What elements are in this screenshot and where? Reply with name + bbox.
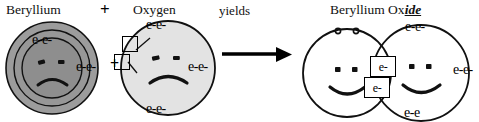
product-right-side-electrons-label: e-e-: [453, 63, 473, 76]
oxygen-right-eye: [173, 56, 180, 60]
beryllium-right-eye: [58, 60, 65, 64]
shared-electron-box-upper: e-: [370, 56, 396, 77]
product-right-eye-2: [426, 64, 432, 69]
oxygen-right-electrons-label: e-e-: [188, 60, 208, 73]
product-right-smile-mouth: [403, 85, 440, 93]
arrow-head: [276, 47, 292, 62]
beryllium-shell-electrons-label: e-e-: [32, 33, 52, 46]
oxygen-empty-slot-lower: [114, 54, 130, 70]
oxygen-bottom-electrons-label: e-e-: [146, 102, 166, 115]
product-left-eye-1: [335, 67, 341, 72]
oxygen-top-electrons-label: e-e-: [146, 18, 166, 31]
product-left-top-electrons-label: e-e: [333, 24, 349, 37]
product-right-bottom-electrons-label: e-e: [404, 106, 420, 119]
oxygen-empty-slot-upper: [122, 36, 138, 52]
chemistry-bonding-diagram: Beryllium + Oxygen yields Beryllium Oxid…: [0, 0, 479, 122]
shared-electron-box-lower: e-: [364, 77, 390, 98]
product-right-top-electrons-label: e-e-: [405, 20, 425, 33]
beryllium-inner-core: [22, 38, 82, 98]
beryllium-valence-electrons-label: e-e-: [76, 60, 96, 73]
product-left-eye-2: [352, 67, 358, 72]
yields-arrow-group: [222, 47, 292, 62]
product-right-eye-1: [409, 64, 415, 69]
